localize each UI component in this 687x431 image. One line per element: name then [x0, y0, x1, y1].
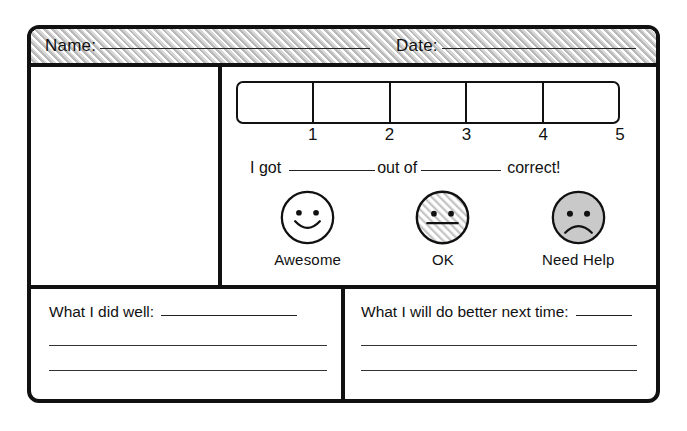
- next-time-writing-line[interactable]: [361, 345, 637, 346]
- date-field[interactable]: Date:: [396, 36, 636, 56]
- rating-scale-numbers: 1 2 3 4 5: [236, 125, 620, 147]
- scale-number-3: 3: [462, 125, 471, 145]
- blank-work-panel[interactable]: [31, 67, 222, 285]
- face-option-awesome[interactable]: Awesome: [248, 189, 368, 268]
- name-input-line[interactable]: [100, 48, 370, 49]
- scale-number-2: 2: [385, 125, 394, 145]
- score-sentence: I got out of correct!: [250, 159, 561, 177]
- next-time-box: What I will do better next time:: [345, 289, 656, 399]
- rating-strip[interactable]: [236, 81, 620, 124]
- name-label: Name:: [45, 36, 100, 56]
- did-well-writing-line[interactable]: [49, 370, 327, 371]
- neutral-face-icon[interactable]: [414, 189, 471, 246]
- rating-scale-group: 1 2 3 4 5: [236, 81, 620, 147]
- rating-cell[interactable]: [467, 83, 543, 122]
- self-rating-faces: Awesome: [240, 189, 646, 268]
- face-label-need-help: Need Help: [518, 251, 638, 268]
- did-well-inline-blank[interactable]: [161, 315, 297, 316]
- face-option-need-help[interactable]: Need Help: [518, 189, 638, 268]
- score-total-blank[interactable]: [421, 170, 501, 171]
- scale-number-5: 5: [615, 125, 624, 145]
- next-time-inline-blank[interactable]: [576, 315, 632, 316]
- did-well-prompt: What I did well:: [49, 303, 325, 321]
- smiley-face-icon[interactable]: [279, 189, 336, 246]
- did-well-writing-line[interactable]: [49, 345, 327, 346]
- did-well-label: What I did well:: [49, 303, 154, 321]
- worksheet-sheet: Name: Date: 1 2: [27, 25, 660, 403]
- middle-section: 1 2 3 4 5 I got out of correct!: [31, 67, 656, 285]
- rating-cell[interactable]: [391, 83, 467, 122]
- next-time-label: What I will do better next time:: [361, 303, 569, 321]
- scale-number-4: 4: [538, 125, 547, 145]
- face-label-ok: OK: [383, 251, 503, 268]
- face-option-ok[interactable]: OK: [383, 189, 503, 268]
- rating-cell[interactable]: [238, 83, 314, 122]
- date-input-line[interactable]: [442, 48, 636, 49]
- next-time-writing-line[interactable]: [361, 370, 637, 371]
- name-field[interactable]: Name:: [45, 36, 370, 56]
- score-prefix-label: I got: [250, 159, 281, 177]
- rating-cell[interactable]: [544, 83, 618, 122]
- reflection-section: What I did well: What I will do better n…: [31, 285, 656, 399]
- score-middle-label: out of: [377, 159, 417, 177]
- face-label-awesome: Awesome: [248, 251, 368, 268]
- did-well-box: What I did well:: [31, 289, 345, 399]
- scale-number-1: 1: [308, 125, 317, 145]
- rating-cell[interactable]: [314, 83, 390, 122]
- score-earned-blank[interactable]: [289, 170, 375, 171]
- next-time-prompt: What I will do better next time:: [361, 303, 638, 321]
- score-suffix-label: correct!: [507, 159, 560, 177]
- sad-face-icon[interactable]: [550, 189, 607, 246]
- date-label: Date:: [396, 36, 442, 56]
- header-band: Name: Date:: [31, 29, 656, 67]
- score-panel: 1 2 3 4 5 I got out of correct!: [222, 67, 656, 285]
